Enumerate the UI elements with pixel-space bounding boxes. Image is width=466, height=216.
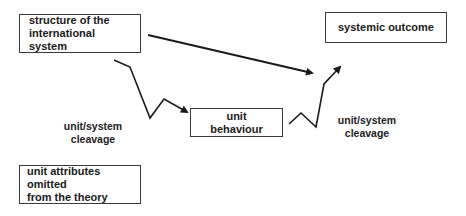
- structure-to-outcome-arrow: [148, 35, 312, 73]
- unit-behaviour-box: unit behaviour: [190, 108, 283, 137]
- structure-of-international-system-box: structure of the international system: [19, 14, 141, 53]
- structure-box-label: structure of the international system: [29, 14, 131, 53]
- unit-system-cleavage-label-left: unit/system cleavage: [56, 120, 130, 146]
- behaviour-box-label: unit behaviour: [200, 110, 273, 136]
- unit-attributes-omitted-box: unit attributes omitted from the theory: [19, 165, 141, 204]
- outcome-box-label: systemic outcome: [338, 21, 434, 34]
- structure-to-behaviour-zigzag-arrow: [114, 60, 187, 118]
- omitted-box-label: unit attributes omitted from the theory: [27, 165, 131, 204]
- systemic-outcome-box: systemic outcome: [325, 12, 447, 43]
- unit-system-cleavage-label-right: unit/system cleavage: [330, 114, 404, 140]
